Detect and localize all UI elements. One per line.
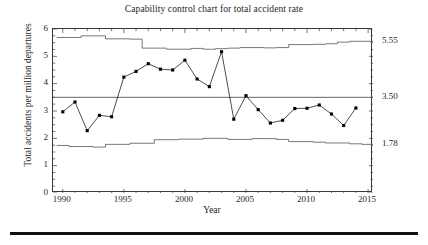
- lcl-right-label: 1.78: [382, 139, 424, 148]
- data-point: [281, 119, 284, 122]
- y-tick-label-6: 6: [32, 24, 48, 33]
- data-point: [196, 77, 199, 80]
- chart-title: Capability control chart for total accid…: [0, 4, 428, 14]
- data-point: [110, 115, 113, 118]
- chart-figure: Capability control chart for total accid…: [0, 0, 428, 245]
- y-tick-label-2: 2: [32, 133, 48, 142]
- axis-ticks: [53, 29, 373, 193]
- data-point: [330, 112, 333, 115]
- data-point: [61, 110, 64, 113]
- plot-area: [52, 28, 372, 192]
- x-axis-title: Year: [52, 205, 372, 215]
- data-point: [159, 68, 162, 71]
- ucl-right-label: 5.55: [382, 36, 424, 45]
- data-point: [73, 100, 76, 103]
- accident-rate-line: [63, 52, 356, 131]
- x-tick-label-2010: 2010: [286, 195, 326, 204]
- data-point: [318, 103, 321, 106]
- data-point: [98, 114, 101, 117]
- footer-rule: [10, 232, 418, 235]
- data-point: [232, 118, 235, 121]
- data-point: [183, 59, 186, 62]
- y-tick-label-5: 5: [32, 51, 48, 60]
- upper-control-limit-line: [57, 36, 373, 49]
- x-tick-label-1995: 1995: [103, 195, 143, 204]
- data-point: [354, 106, 357, 109]
- data-point: [244, 94, 247, 97]
- x-tick-label-2005: 2005: [225, 195, 265, 204]
- data-point: [257, 108, 260, 111]
- data-point: [220, 50, 223, 53]
- x-tick-label-2000: 2000: [164, 195, 204, 204]
- x-tick-label-2015: 2015: [347, 195, 387, 204]
- y-tick-label-1: 1: [32, 160, 48, 169]
- data-point: [147, 62, 150, 65]
- data-point: [208, 85, 211, 88]
- data-point: [135, 70, 138, 73]
- lower-control-limit-line: [57, 138, 373, 147]
- data-point: [269, 121, 272, 124]
- data-point: [171, 68, 174, 71]
- y-tick-label-4: 4: [32, 78, 48, 87]
- x-tick-label-1990: 1990: [42, 195, 82, 204]
- accident-rate-markers: [61, 50, 357, 132]
- cl-right-label: 3.50: [382, 92, 424, 101]
- control-limit-labels: 5.553.501.78: [382, 28, 428, 192]
- data-point: [342, 124, 345, 127]
- plot-svg: [53, 29, 373, 193]
- data-point: [293, 107, 296, 110]
- y-axis-tick-labels: 0123456: [28, 28, 48, 192]
- data-point: [306, 107, 309, 110]
- y-tick-label-3: 3: [32, 106, 48, 115]
- data-point: [86, 129, 89, 132]
- data-point: [122, 76, 125, 79]
- y-axis-title-container: Total accidents per million departures: [0, 28, 16, 192]
